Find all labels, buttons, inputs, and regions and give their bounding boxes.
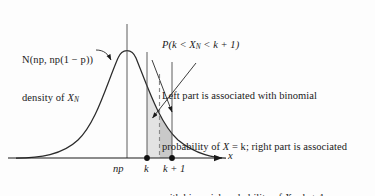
annotation-line-4-prefix: with binomial probability of [162,192,285,196]
annotation-line-3: probability of X = k; right part is asso… [162,141,347,154]
annotation-line-1-suffix: < k + 1) [201,39,240,50]
curve-label-line-2: density of XN [22,92,93,105]
normal-binomial-approximation-figure: N(np, np(1 − p)) density of XN P(k < XN … [0,0,375,196]
k-tick-label: k [144,163,149,176]
probability-annotation: P(k < XN < k + 1) Left part is associate… [162,13,347,196]
annotation-line-1-prefix: P(k < [162,39,189,50]
curve-label-density-text: density of [22,92,67,103]
mean-tick-label: np [113,163,124,176]
annotation-line-3-suffix: = k; right part is associated [229,141,347,152]
annotation-line-4-suffix: = k + 1 [291,192,324,196]
annotation-line-4: with binomial probability of X = k + 1 [162,192,347,196]
curve-label-leader [96,50,111,60]
k-plus-one-tick-label: k + 1 [163,163,185,176]
curve-label-variable-subscript: N [74,95,79,104]
curve-label-line-1: N(np, np(1 − p)) [22,54,93,67]
curve-label: N(np, np(1 − p)) density of XN [22,28,93,130]
x-axis-label: x [228,150,233,163]
annotation-line-2: Left part is associated with binomial [162,90,347,103]
k-axis-dot [144,155,150,161]
annotation-line-1: P(k < XN < k + 1) [162,39,347,52]
annotation-line-3-prefix: probability of [162,141,223,152]
